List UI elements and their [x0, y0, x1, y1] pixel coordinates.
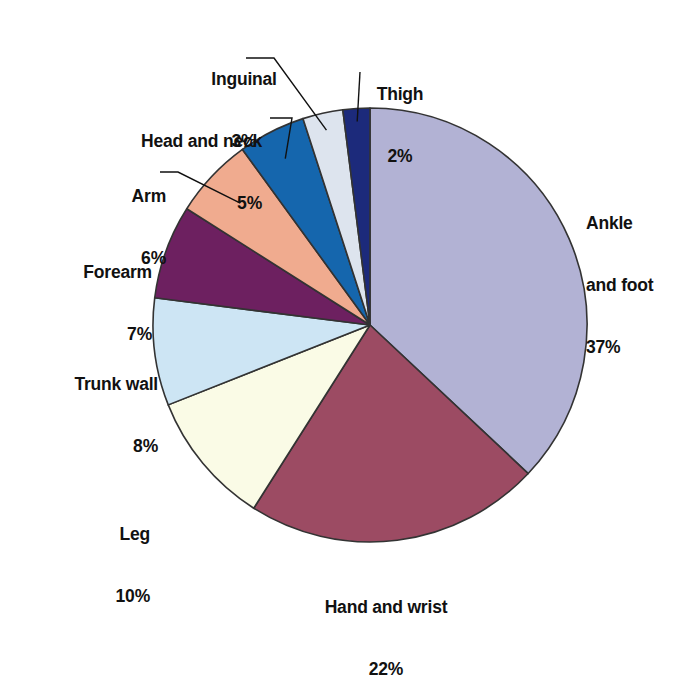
- slice-label-thigh: Thigh 2%: [344, 43, 456, 208]
- slice-value-trunk-wall: 8%: [10, 436, 158, 457]
- slice-label-ankle-and-foot-line2: and foot: [586, 275, 653, 296]
- slice-label-ankle-and-foot: Ankle and foot 37%: [586, 172, 653, 399]
- slice-value-leg: 10%: [50, 586, 150, 607]
- slice-label-leg-text: Leg: [50, 524, 150, 545]
- slice-value-forearm: 7%: [24, 324, 152, 345]
- slice-value-head-and-neck: 5%: [24, 193, 262, 214]
- slice-label-thigh-text: Thigh: [344, 84, 456, 105]
- slice-value-inguinal: 3%: [178, 131, 310, 152]
- slice-label-inguinal-text: Inguinal: [178, 69, 310, 90]
- slice-label-ankle-and-foot-line1: Ankle: [586, 213, 653, 234]
- slice-label-inguinal: Inguinal 3%: [178, 28, 310, 193]
- slice-value-thigh: 2%: [344, 146, 456, 167]
- figure-caption: [30, 612, 670, 630]
- slice-value-ankle-and-foot: 37%: [586, 337, 653, 358]
- slice-value-hand-and-wrist: 22%: [278, 659, 494, 679]
